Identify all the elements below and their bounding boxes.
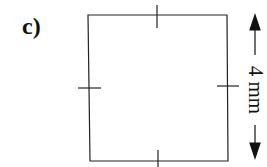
square-outline [88, 15, 228, 161]
square-diagram [0, 0, 267, 167]
dimension-label: 4 mm [243, 55, 267, 125]
